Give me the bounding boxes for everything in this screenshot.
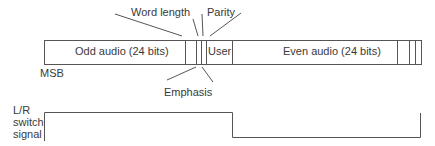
emphasis-leader-right [202, 67, 213, 82]
emphasis-leader-left [167, 67, 196, 80]
field-user: User [208, 45, 231, 57]
lr-switch-waveform [45, 113, 421, 142]
diagram-canvas [0, 0, 435, 146]
word-length-tick-2 [202, 14, 203, 36]
signal-label-line-3: signal [13, 128, 44, 140]
signal-label: L/R switch signal [13, 104, 44, 140]
field-odd-audio: Odd audio (24 bits) [75, 45, 169, 57]
field-even-audio: Even audio (24 bits) [283, 45, 381, 57]
signal-label-line-1: L/R [13, 104, 44, 116]
emphasis-label: Emphasis [164, 86, 212, 98]
word-length-label: Word length [131, 6, 190, 18]
msb-label: MSB [40, 67, 64, 79]
word-length-tick-1 [193, 19, 198, 36]
parity-label: Parity [207, 6, 235, 18]
signal-label-line-2: switch [13, 116, 44, 128]
